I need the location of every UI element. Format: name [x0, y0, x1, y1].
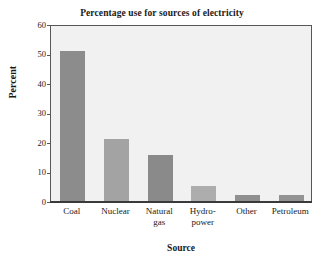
y-tick-label: 20	[26, 139, 46, 148]
bar-chart-figure: Percentage use for sources of electricit…	[0, 0, 324, 266]
y-tick-label: 50	[26, 50, 46, 59]
x-axis-line	[50, 201, 312, 203]
y-tick-label: 10	[26, 168, 46, 177]
y-tick-label: 40	[26, 80, 46, 89]
bar	[60, 51, 85, 201]
y-tick-mark	[47, 84, 50, 85]
plot-area	[50, 25, 312, 202]
bar	[148, 155, 173, 201]
y-tick-mark	[47, 173, 50, 174]
y-axis-label: Percent	[7, 85, 18, 99]
y-tick-mark	[47, 202, 50, 203]
y-tick-label: 30	[26, 109, 46, 118]
x-tick-label: Petroleum	[264, 206, 316, 217]
y-tick-mark	[47, 25, 50, 26]
y-tick-mark	[47, 143, 50, 144]
y-tick-label: 60	[26, 21, 46, 30]
y-tick-label: 0	[26, 198, 46, 207]
x-axis-label: Source	[50, 243, 312, 253]
chart-title: Percentage use for sources of electricit…	[0, 8, 324, 19]
y-tick-mark	[47, 114, 50, 115]
bar	[191, 186, 216, 201]
y-tick-mark	[47, 55, 50, 56]
bar	[104, 139, 129, 201]
bars-container	[51, 26, 311, 201]
